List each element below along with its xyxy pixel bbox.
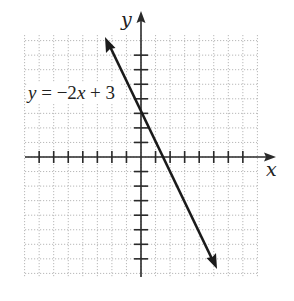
plotted-line — [110, 46, 213, 261]
x-axis-label: x — [266, 158, 277, 180]
line-arrow-top-icon — [105, 37, 116, 53]
y-axis-label: y — [120, 8, 132, 30]
equation-label: y = −2x + 3 — [26, 82, 115, 103]
line-arrow-bottom-icon — [207, 253, 218, 269]
coordinate-graph: x y y = −2x + 3 — [0, 0, 294, 301]
